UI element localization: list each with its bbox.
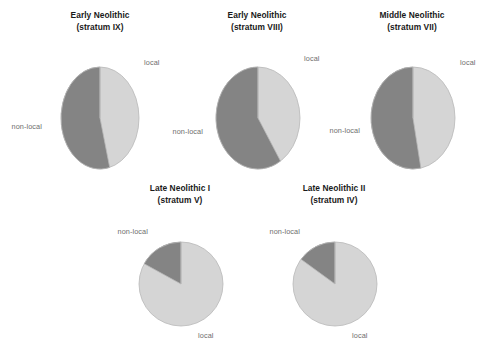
slice-label-non-local: non-local <box>326 126 360 135</box>
slice-label-local: local <box>352 331 368 340</box>
panel-early-neolithic-stratum-viii: Early Neolithic (stratum VIII) local non… <box>175 10 339 175</box>
panel-late-neolithic-i-stratum-v: Late Neolithic I (stratum V) non-local l… <box>98 183 262 348</box>
pie-svg <box>370 66 456 170</box>
pie-svg <box>60 66 140 170</box>
panel-title-line1: Late Neolithic II <box>303 183 366 193</box>
pie-chart <box>292 241 378 327</box>
slice-label-non-local: non-local <box>169 127 203 136</box>
panel-title-line1: Early Neolithic <box>228 10 287 20</box>
slice-label-non-local: non-local <box>110 227 148 236</box>
panel-title: Middle Neolithic (stratum VII) <box>330 10 493 33</box>
pie-svg <box>215 66 301 170</box>
slice-label-local: local <box>304 54 320 63</box>
panel-title: Late Neolithic I (stratum V) <box>98 183 262 206</box>
panel-title-line1: Late Neolithic I <box>150 183 210 193</box>
slice-label-non-local: non-local <box>8 122 42 131</box>
pie-chart-figure: Early Neolithic (stratum IX) local non-l… <box>0 0 493 351</box>
panel-title: Early Neolithic (stratum IX) <box>18 10 182 33</box>
panel-title: Late Neolithic II (stratum IV) <box>252 183 416 206</box>
slice-label-local: local <box>198 331 214 340</box>
pie-chart <box>370 66 456 170</box>
pie-svg <box>292 241 378 327</box>
panel-late-neolithic-ii-stratum-iv: Late Neolithic II (stratum IV) non-local… <box>252 183 416 348</box>
panel-title-line2: (stratum VII) <box>330 22 493 34</box>
pie-svg <box>138 241 224 327</box>
panel-title-line1: Early Neolithic <box>71 10 130 20</box>
panel-title-line1: Middle Neolithic <box>379 10 444 20</box>
panel-title-line2: (stratum VIII) <box>175 22 339 34</box>
slice-label-non-local: non-local <box>262 227 300 236</box>
pie-chart <box>215 66 301 170</box>
pie-chart <box>138 241 224 327</box>
panel-title-line2: (stratum V) <box>98 195 262 207</box>
slice-label-local: local <box>144 58 160 67</box>
slice-label-local: local <box>460 58 476 67</box>
panel-title-line2: (stratum IV) <box>252 195 416 207</box>
panel-early-neolithic-stratum-ix: Early Neolithic (stratum IX) local non-l… <box>18 10 182 175</box>
panel-title: Early Neolithic (stratum VIII) <box>175 10 339 33</box>
panel-title-line2: (stratum IX) <box>18 22 182 34</box>
panel-middle-neolithic-stratum-vii: Middle Neolithic (stratum VII) local non… <box>330 10 493 175</box>
pie-chart <box>60 66 140 170</box>
